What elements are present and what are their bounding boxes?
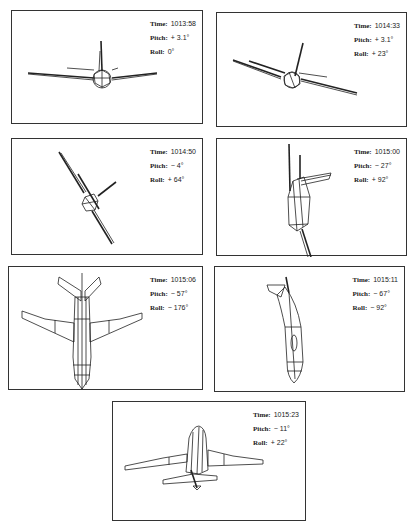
telemetry-readout: Time:1015:00 Pitch:− 27° Roll:+ 92°: [354, 145, 400, 187]
attitude-panel-1: Time:1013:58 Pitch:+ 3.1° Roll:0°: [11, 10, 203, 124]
time-value: 1014:33: [375, 22, 400, 29]
attitude-panel-3: Time:1014:50 Pitch:− 4° Roll:+ 64°: [11, 138, 203, 255]
roll-value: − 92°: [370, 304, 387, 311]
time-value: 1015:11: [373, 276, 398, 283]
telemetry-readout: Time:1015:23 Pitch:− 11° Roll:+ 22°: [253, 408, 299, 450]
pitch-value: + 3.1°: [171, 34, 190, 41]
roll-value: + 64°: [168, 176, 185, 183]
pitch-label: Pitch:: [150, 34, 168, 42]
pitch-value: − 67°: [373, 290, 390, 297]
pitch-label: Pitch:: [354, 36, 372, 44]
pitch-label: Pitch:: [150, 162, 168, 170]
roll-label: Roll:: [354, 50, 369, 58]
pitch-value: − 27°: [375, 162, 392, 169]
roll-label: Roll:: [150, 176, 165, 184]
time-label: Time:: [354, 22, 372, 30]
pitch-value: − 11°: [274, 425, 290, 432]
pitch-value: − 4°: [171, 162, 184, 169]
time-value: 1015:00: [375, 148, 400, 155]
time-label: Time:: [253, 411, 271, 419]
roll-value: + 92°: [372, 176, 389, 183]
attitude-panel-6: Time:1015:11 Pitch:− 67° Roll:− 92°: [214, 266, 405, 392]
pitch-label: Pitch:: [150, 290, 168, 298]
pitch-label: Pitch:: [253, 425, 271, 433]
roll-label: Roll:: [354, 176, 369, 184]
pitch-value: + 3.1°: [375, 36, 394, 43]
time-value: 1013:58: [171, 20, 196, 27]
time-value: 1015:06: [171, 276, 196, 283]
pitch-label: Pitch:: [354, 162, 372, 170]
attitude-panel-5: Time:1015:06 Pitch:− 57° Roll:− 176°: [8, 266, 203, 390]
roll-value: − 176°: [168, 304, 189, 311]
roll-value: + 22°: [271, 439, 288, 446]
pitch-label: Pitch:: [352, 290, 370, 298]
time-value: 1015:23: [274, 411, 299, 418]
telemetry-readout: Time:1013:58 Pitch:+ 3.1° Roll:0°: [150, 17, 196, 59]
telemetry-readout: Time:1015:11 Pitch:− 67° Roll:− 92°: [352, 273, 398, 315]
attitude-panel-7: Time:1015:23 Pitch:− 11° Roll:+ 22°: [112, 401, 306, 521]
telemetry-readout: Time:1014:33 Pitch:+ 3.1° Roll:+ 23°: [354, 19, 400, 61]
time-label: Time:: [150, 20, 168, 28]
attitude-panel-4: Time:1015:00 Pitch:− 27° Roll:+ 92°: [216, 138, 407, 256]
pitch-value: − 57°: [171, 290, 188, 297]
roll-label: Roll:: [352, 304, 367, 312]
roll-value: + 23°: [372, 50, 389, 57]
time-label: Time:: [354, 148, 372, 156]
telemetry-readout: Time:1015:06 Pitch:− 57° Roll:− 176°: [150, 273, 196, 315]
roll-label: Roll:: [253, 439, 268, 447]
time-label: Time:: [150, 276, 168, 284]
attitude-panel-2: Time:1014:33 Pitch:+ 3.1° Roll:+ 23°: [216, 12, 407, 127]
roll-label: Roll:: [150, 48, 165, 56]
time-label: Time:: [352, 276, 370, 284]
telemetry-readout: Time:1014:50 Pitch:− 4° Roll:+ 64°: [150, 145, 196, 187]
roll-value: 0°: [168, 48, 175, 55]
time-value: 1014:50: [171, 148, 196, 155]
roll-label: Roll:: [150, 304, 165, 312]
time-label: Time:: [150, 148, 168, 156]
